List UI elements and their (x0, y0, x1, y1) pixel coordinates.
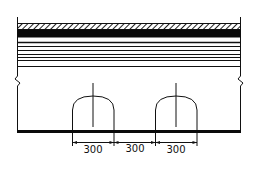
bottom-base-bar (17, 130, 241, 133)
arch-opening-1 (73, 83, 115, 131)
hatched-top-layer (18, 24, 241, 30)
thin-layers (18, 43, 241, 67)
dimension-label-2: 300 (125, 143, 144, 154)
dimension-label-1: 300 (83, 144, 102, 155)
section-diagram: 300 300 300 (0, 0, 259, 175)
dimension-label-3: 300 (166, 144, 185, 155)
arch-opening-2 (156, 83, 198, 131)
solid-black-layer (18, 30, 241, 38)
